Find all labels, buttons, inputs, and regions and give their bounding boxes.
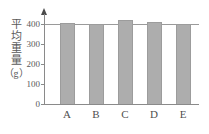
- y-tick-mark-300: [41, 44, 45, 45]
- x-tick-label-B: B: [84, 108, 108, 120]
- bar-A: [60, 23, 75, 104]
- x-tick-label-D: D: [142, 108, 166, 120]
- bar-C: [118, 20, 133, 104]
- bar-B: [89, 24, 104, 104]
- x-tick-label-E: E: [171, 108, 195, 120]
- bar-E: [176, 24, 191, 104]
- x-tick-label-C: C: [113, 108, 137, 120]
- bar-chart: 平 均 重 量 （g） 400 300 200 100 0 A B C D E: [0, 0, 209, 134]
- x-tick-label-A: A: [55, 108, 79, 120]
- bar-D: [147, 22, 162, 104]
- plot-area: A B C D E: [0, 0, 209, 134]
- y-tick-mark-200: [41, 64, 45, 65]
- y-tick-mark-400: [41, 24, 45, 25]
- x-axis-line: [44, 104, 199, 105]
- y-tick-mark-100: [41, 84, 45, 85]
- y-tick-mark-0: [41, 104, 45, 105]
- y-axis-line: [44, 14, 45, 105]
